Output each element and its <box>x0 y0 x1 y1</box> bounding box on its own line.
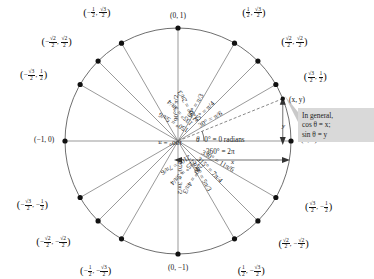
generic-point-dot <box>281 96 285 100</box>
circle-point-dot-300 <box>232 236 237 241</box>
axis-point-dot-90 <box>175 25 180 30</box>
axis-point-label-bottom: (0, −1) <box>168 264 188 271</box>
axis-point-dot-180 <box>62 138 67 143</box>
spoke-line-135 <box>98 61 178 141</box>
point-coordinate-60: (12, √32) <box>242 7 265 19</box>
unit-circle-figure: (√32, 12)(√22, √22)(12, √32)(−12, √32)(−… <box>0 0 374 279</box>
callout-line-2: cos θ = x; <box>302 120 370 129</box>
axis-point-label-top: (0, 1) <box>170 12 186 19</box>
zero-radians-text: 0° = 0 radians <box>204 136 244 144</box>
point-coordinate-150: (−√32, 12) <box>20 69 47 81</box>
axis-point-dot-0 <box>288 138 293 143</box>
point-coordinate-240: (−12, −√32) <box>80 265 111 277</box>
theta-symbol: θ <box>196 136 200 144</box>
axis-point-label-left: (−1, 0) <box>34 136 54 143</box>
point-coordinate-45: (√22, √22) <box>281 36 307 48</box>
point-coordinate-120: (−12, √32) <box>83 7 110 19</box>
point-coordinate-210: (−√32, −12) <box>17 199 48 211</box>
spoke-line-225 <box>98 141 178 221</box>
spoke-line-240 <box>122 141 179 239</box>
y-measure-label: y <box>282 122 285 130</box>
circle-point-dot-210 <box>78 195 83 200</box>
spoke-label-270: 270° = 3π/2 <box>176 161 184 194</box>
point-coordinate-330: (√32, −12) <box>305 201 332 213</box>
spoke-label-180: 180° = π <box>158 139 182 147</box>
point-coordinate-135: (−√22, √22) <box>41 36 71 48</box>
axis-point-dot-270 <box>175 251 180 256</box>
circle-point-dot-60 <box>232 41 237 46</box>
circle-point-dot-30 <box>273 82 278 87</box>
x-measure-label: x <box>231 158 234 166</box>
circle-point-dot-135 <box>95 58 100 63</box>
circle-point-dot-240 <box>119 236 124 241</box>
full-turn-label: 360° = 2π <box>206 148 235 156</box>
circle-point-dot-120 <box>119 41 124 46</box>
circle-point-dot-45 <box>255 58 260 63</box>
point-coordinate-30: (√32, 12) <box>304 71 327 83</box>
circle-point-dot-330 <box>273 195 278 200</box>
point-coordinate-225: (−√22, −√22) <box>36 236 70 248</box>
callout-line-1: In general, <box>302 111 370 120</box>
circle-point-dot-315 <box>255 218 260 223</box>
generic-point-label: (x, y) <box>289 96 305 103</box>
circle-point-dot-225 <box>95 218 100 223</box>
circle-point-dot-150 <box>78 82 83 87</box>
point-coordinate-300: (12, −√32) <box>238 265 265 277</box>
spoke-line-120 <box>122 43 179 141</box>
zero-radians-label: θ 0° = 0 radians <box>196 136 245 144</box>
general-formula-callout: In general, cos θ = x; sin θ = y <box>298 108 374 142</box>
point-coordinate-315: (√22, −√22) <box>279 238 309 250</box>
callout-line-3: sin θ = y <box>302 130 370 139</box>
